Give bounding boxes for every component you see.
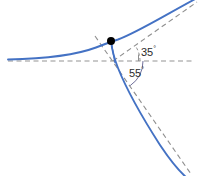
figure-container: 35° 55° xyxy=(0,0,198,176)
periapsis-marker-dot xyxy=(107,37,115,45)
upper-angle-value: 35 xyxy=(141,46,153,58)
diagram-canvas xyxy=(0,0,198,176)
lower-angle-degree-symbol: ° xyxy=(141,66,144,73)
figure-background xyxy=(0,0,198,176)
lower-angle-value: 55 xyxy=(129,67,141,79)
upper-angle-degree-symbol: ° xyxy=(153,45,156,52)
upper-angle-label: 35° xyxy=(141,45,156,58)
lower-angle-label: 55° xyxy=(129,66,144,79)
